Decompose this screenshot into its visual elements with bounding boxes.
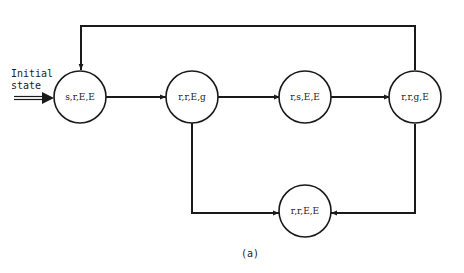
state-node-s1: s,r,E,E (54, 71, 106, 123)
initial-label-line2: state (11, 80, 41, 91)
edge-s4-s5 (331, 124, 415, 213)
diagram-svg: Initial state s,r,E,E r,r,E,g r,s,E,E r,… (0, 0, 464, 273)
initial-state-arrow (14, 92, 54, 104)
state-label: r,r,g,E (401, 92, 429, 102)
state-node-s3: r,s,E,E (279, 71, 331, 123)
state-label: r,r,E,g (178, 92, 206, 102)
initial-label-line1: Initial (11, 68, 53, 79)
figure-caption: (a) (241, 248, 259, 259)
state-node-s5: r,r,E,E (279, 185, 331, 237)
state-node-s2: r,r,E,g (166, 71, 218, 123)
state-label: s,r,E,E (65, 92, 95, 102)
state-label: r,s,E,E (290, 92, 320, 102)
edge-s2-s5 (192, 123, 279, 213)
state-diagram: Initial state s,r,E,E r,r,E,g r,s,E,E r,… (0, 0, 464, 273)
state-node-s4: r,r,g,E (389, 71, 441, 123)
edge-s4-s1 (81, 26, 415, 70)
state-label: r,r,E,E (291, 206, 319, 216)
